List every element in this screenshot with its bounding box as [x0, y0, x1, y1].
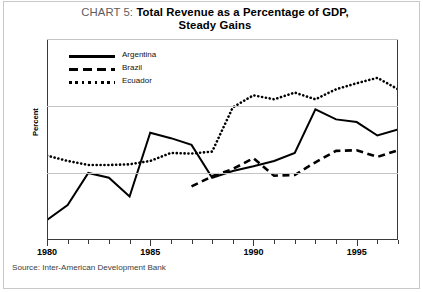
x-tick-1989 — [233, 240, 234, 244]
plot-area: 0102030 1980198519901995 Percent Argenti… — [47, 39, 398, 240]
x-tick-1988 — [212, 240, 213, 244]
x-tick-1980 — [47, 240, 48, 246]
x-tick-label-1985: 1985 — [140, 247, 160, 257]
chart-title-main-2: Steady Gains — [40, 19, 390, 32]
legend-item-argentina[interactable]: Argentina — [69, 50, 187, 63]
chart-title-line-1: CHART 5: Total Revenue as a Percentage o… — [40, 6, 390, 19]
legend-item-ecuador[interactable]: Ecuador — [69, 76, 187, 89]
x-tick-1983 — [109, 240, 110, 244]
legend-item-brazil[interactable]: Brazil — [69, 63, 187, 76]
x-tick-1984 — [130, 240, 131, 244]
x-tick-1993 — [315, 240, 316, 244]
chart-legend: ArgentinaBrazilEcuador — [69, 50, 187, 89]
gridline-y-10 — [47, 173, 398, 174]
chart-title-main-1: Total Revenue as a Percentage of GDP, — [136, 6, 348, 18]
legend-label-ecuador: Ecuador — [122, 76, 152, 85]
legend-label-brazil: Brazil — [122, 63, 142, 72]
dashed-line-icon — [69, 68, 115, 71]
legend-label-argentina: Argentina — [122, 50, 156, 59]
chart-figure: CHART 5: Total Revenue as a Percentage o… — [0, 0, 423, 292]
x-tick-label-1980: 1980 — [37, 247, 57, 257]
solid-line-icon — [69, 55, 115, 58]
y-axis-label: Percent — [31, 108, 40, 136]
axes-frame-right — [397, 39, 398, 240]
gridline-y-30 — [47, 39, 398, 40]
chart-title-prefix: CHART 5: — [81, 6, 133, 18]
x-tick-1992 — [295, 240, 296, 244]
series-line-brazil — [192, 150, 398, 186]
x-tick-1986 — [171, 240, 172, 244]
dotted-line-icon — [69, 81, 115, 84]
x-tick-label-1990: 1990 — [243, 247, 263, 257]
x-tick-1990 — [253, 240, 254, 246]
x-tick-1997 — [398, 240, 399, 244]
x-tick-1981 — [68, 240, 69, 244]
x-tick-1996 — [377, 240, 378, 244]
chart-title: CHART 5: Total Revenue as a Percentage o… — [40, 6, 390, 32]
x-tick-1987 — [192, 240, 193, 244]
x-tick-label-1995: 1995 — [347, 247, 367, 257]
gridline-y-20 — [47, 106, 398, 107]
x-tick-1982 — [88, 240, 89, 244]
x-tick-1994 — [336, 240, 337, 244]
source-note: Source: Inter-American Development Bank — [12, 263, 166, 272]
x-tick-1995 — [357, 240, 358, 246]
x-tick-1985 — [150, 240, 151, 246]
x-tick-1991 — [274, 240, 275, 244]
